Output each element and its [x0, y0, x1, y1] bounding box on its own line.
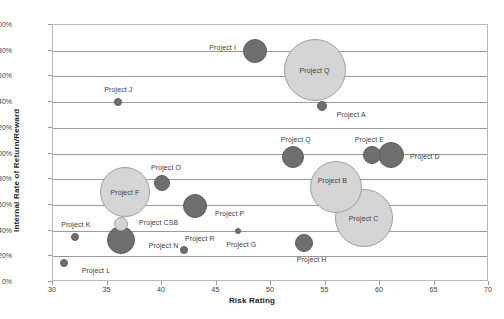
data-bubble[interactable] [183, 194, 207, 218]
data-point-label: Project H [297, 256, 327, 263]
y-axis-tick-label: 80% [0, 175, 12, 182]
y-axis-tick-mark [48, 204, 52, 205]
data-point-label: Project D [410, 152, 440, 159]
data-point-label: Project CSB [139, 219, 178, 226]
data-bubble[interactable] [180, 246, 188, 254]
y-axis-tick-label: 140% [0, 98, 12, 105]
data-bubble[interactable] [60, 259, 68, 267]
y-axis-tick-mark [48, 153, 52, 154]
x-axis-tick-mark [52, 281, 53, 285]
plot-inner: Project IProject QProject JProject AProj… [53, 25, 487, 280]
data-point-label: Project J [104, 86, 132, 93]
data-bubble[interactable] [154, 175, 170, 191]
y-axis-tick-mark [48, 24, 52, 25]
data-point-label: Project L [82, 266, 111, 273]
data-point-label: Project F [110, 189, 139, 196]
data-point-label: Project P [215, 210, 244, 217]
x-axis-tick-label: 50 [266, 286, 274, 293]
y-axis-tick-mark [48, 101, 52, 102]
x-axis-tick-label: 30 [48, 286, 56, 293]
y-axis-tick-label: 40% [0, 226, 12, 233]
data-point-label: Project N [149, 241, 179, 248]
data-point-label: Project Q [300, 66, 330, 73]
y-axis-tick-label: 100% [0, 149, 12, 156]
x-axis-title: Risk Rating [0, 296, 504, 305]
y-axis-tick-mark [48, 178, 52, 179]
y-axis-tick-mark [48, 127, 52, 128]
x-axis-tick-mark [161, 281, 162, 285]
data-bubble[interactable] [317, 101, 327, 111]
x-axis-tick-mark [325, 281, 326, 285]
data-point-label: Project O [151, 164, 181, 171]
x-axis-tick-label: 45 [212, 286, 220, 293]
y-axis-tick-label: 60% [0, 200, 12, 207]
data-point-label: Project R [185, 234, 215, 241]
data-bubble[interactable] [71, 233, 79, 241]
data-point-label: Project A [337, 110, 366, 117]
x-axis-tick-mark [488, 281, 489, 285]
x-axis-tick-mark [216, 281, 217, 285]
data-bubble[interactable] [378, 142, 404, 168]
y-axis-tick-label: 20% [0, 252, 12, 259]
gridline [53, 76, 487, 77]
data-point-label: Project C [349, 214, 379, 221]
y-axis-title: Internal Rate of Return/Reward [12, 109, 21, 232]
x-axis-tick-mark [379, 281, 380, 285]
x-axis-tick-mark [434, 281, 435, 285]
plot-area: Project IProject QProject JProject AProj… [52, 24, 488, 281]
y-axis-tick-label: 180% [0, 46, 12, 53]
x-axis-tick-label: 35 [103, 286, 111, 293]
data-point-label: Project Q [281, 136, 311, 143]
x-axis-tick-label: 60 [375, 286, 383, 293]
data-bubble[interactable] [295, 234, 313, 252]
y-axis-tick-mark [48, 230, 52, 231]
x-axis-tick-label: 70 [484, 286, 492, 293]
data-bubble[interactable] [114, 217, 128, 231]
bubble-chart: Project IProject QProject JProject AProj… [0, 0, 504, 319]
data-bubble[interactable] [282, 146, 304, 168]
data-point-label: Project G [226, 240, 256, 247]
data-bubble[interactable] [235, 228, 241, 234]
data-bubble[interactable] [310, 161, 362, 213]
data-bubble[interactable] [243, 39, 267, 63]
x-axis-tick-label: 40 [157, 286, 165, 293]
y-axis-tick-label: 120% [0, 123, 12, 130]
data-bubble[interactable] [363, 146, 381, 164]
gridline [53, 128, 487, 129]
data-point-label: Project E [355, 135, 384, 142]
y-axis-tick-mark [48, 50, 52, 51]
x-axis-tick-mark [270, 281, 271, 285]
data-point-label: Project I [209, 43, 236, 50]
data-point-label: Project K [61, 221, 90, 228]
y-axis-tick-label: 0% [0, 278, 12, 285]
data-bubble[interactable] [114, 98, 122, 106]
y-axis-tick-label: 160% [0, 72, 12, 79]
x-axis-tick-mark [107, 281, 108, 285]
y-axis-tick-mark [48, 75, 52, 76]
x-axis-tick-label: 55 [321, 286, 329, 293]
data-point-label: Project B [318, 176, 347, 183]
y-axis-tick-mark [48, 255, 52, 256]
y-axis-tick-label: 200% [0, 21, 12, 28]
x-axis-tick-label: 65 [430, 286, 438, 293]
gridline [53, 256, 487, 257]
gridline [53, 51, 487, 52]
